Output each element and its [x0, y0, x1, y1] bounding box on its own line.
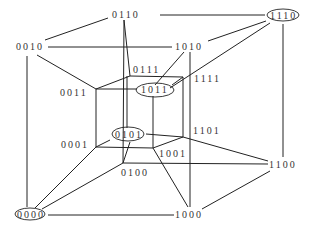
highlight-ovals: [15, 9, 299, 220]
node-label-0100: 0100: [121, 167, 149, 178]
vertex-labels: 0110 1110 0010 1010 0111 1111 0011 1011 …: [16, 9, 297, 220]
node-label-0111: 0111: [133, 64, 160, 75]
node-label-1111: 1111: [194, 73, 221, 84]
node-label-1100: 1100: [269, 159, 297, 170]
node-label-1101: 1101: [193, 125, 221, 136]
node-label-1010: 1010: [175, 41, 203, 52]
node-label-0010: 0010: [16, 41, 44, 52]
node-label-0000: 0000: [17, 209, 45, 220]
node-label-1001: 1001: [159, 148, 187, 159]
hypercube-diagram: 0110 1110 0010 1010 0111 1111 0011 1011 …: [0, 0, 313, 231]
node-label-0110: 0110: [112, 9, 140, 20]
node-label-1000: 1000: [175, 209, 203, 220]
node-label-0011: 0011: [60, 87, 88, 98]
node-label-0101: 0101: [115, 129, 143, 140]
edges: [27, 15, 283, 215]
node-label-0001: 0001: [61, 139, 89, 150]
node-label-1011: 1011: [141, 84, 169, 95]
node-label-1110: 1110: [270, 10, 297, 21]
